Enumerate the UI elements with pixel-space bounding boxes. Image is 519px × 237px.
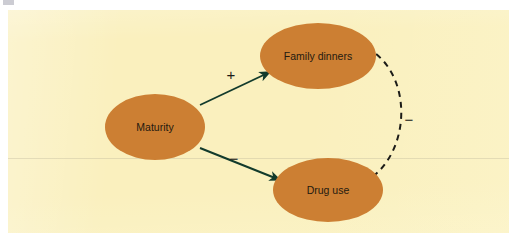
node-label-family-dinners: Family dinners <box>284 50 352 62</box>
edge-sign-family-dinners-drug-use: − <box>405 111 414 128</box>
path-diagram: + − − Family dinners Maturity Drug use <box>0 0 519 237</box>
arrow-line-negative <box>200 148 280 180</box>
edge-maturity-to-family-dinners: + <box>200 66 270 105</box>
edge-sign-maturity-drug-use: − <box>230 150 239 167</box>
node-label-drug-use: Drug use <box>307 184 350 196</box>
node-maturity[interactable]: Maturity <box>105 94 205 160</box>
edge-family-dinners-to-drug-use: − <box>367 48 414 178</box>
node-label-maturity: Maturity <box>136 121 174 133</box>
edge-maturity-to-drug-use: − <box>200 148 280 180</box>
node-drug-use[interactable]: Drug use <box>273 158 383 222</box>
node-family-dinners[interactable]: Family dinners <box>260 23 376 89</box>
edge-sign-maturity-family-dinners: + <box>227 66 236 83</box>
figure-container: + − − Family dinners Maturity Drug use <box>0 0 519 237</box>
